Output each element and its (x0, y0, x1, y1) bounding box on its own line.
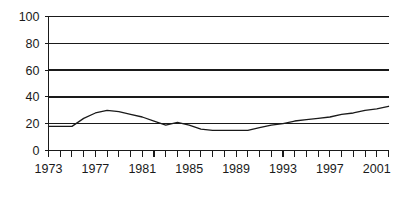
x-axis-tick-marks (49, 151, 389, 157)
chart-canvas: 020406080100 197319771981198519891993199… (0, 0, 406, 198)
x-axis-tick-labels: 19731977198119851989199319972001 (35, 162, 391, 176)
y-tick-label-0: 0 (33, 144, 40, 158)
line-chart-figure: 020406080100 197319771981198519891993199… (0, 0, 406, 198)
x-tick-label-1997: 1997 (316, 162, 344, 176)
x-tick-label-1993: 1993 (269, 162, 297, 176)
x-tick-label-1989: 1989 (222, 162, 250, 176)
y-tick-label-60: 60 (26, 64, 40, 78)
x-tick-label-2001: 2001 (363, 162, 391, 176)
data-series-line (49, 106, 389, 130)
y-tick-label-80: 80 (26, 37, 40, 51)
x-tick-label-1985: 1985 (175, 162, 203, 176)
y-tick-label-20: 20 (26, 117, 40, 131)
x-tick-label-1981: 1981 (128, 162, 156, 176)
x-tick-label-1973: 1973 (35, 162, 63, 176)
x-tick-label-1977: 1977 (81, 162, 109, 176)
y-tick-label-40: 40 (26, 90, 40, 104)
screenshot-root: 020406080100 197319771981198519891993199… (0, 0, 406, 198)
y-tick-label-100: 100 (19, 10, 40, 24)
y-axis-tick-labels: 020406080100 (19, 10, 40, 158)
